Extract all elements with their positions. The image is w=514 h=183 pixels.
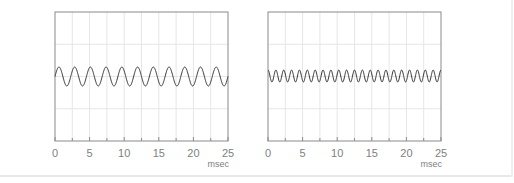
x-tick-label: 15 bbox=[366, 147, 378, 159]
x-tick-label: 0 bbox=[52, 147, 58, 159]
x-tick-label: 15 bbox=[153, 147, 165, 159]
x-tick-label: 0 bbox=[265, 147, 271, 159]
x-tick-label: 20 bbox=[187, 147, 199, 159]
x-tick-label: 20 bbox=[400, 147, 412, 159]
chart-1: 0510152025msec bbox=[52, 12, 234, 169]
x-tick-label: 5 bbox=[300, 147, 306, 159]
bottom-divider bbox=[0, 175, 512, 177]
x-tick-label: 25 bbox=[435, 147, 447, 159]
x-tick-label: 5 bbox=[87, 147, 93, 159]
x-axis-label: msec bbox=[420, 159, 442, 169]
chart-2: 0510152025msec bbox=[265, 12, 447, 169]
x-tick-label: 10 bbox=[331, 147, 343, 159]
right-border bbox=[511, 0, 513, 177]
x-tick-label: 10 bbox=[118, 147, 130, 159]
x-tick-label: 25 bbox=[222, 147, 234, 159]
waveform-figure: 0510152025msec0510152025msec bbox=[0, 0, 514, 183]
x-axis-label: msec bbox=[207, 159, 229, 169]
